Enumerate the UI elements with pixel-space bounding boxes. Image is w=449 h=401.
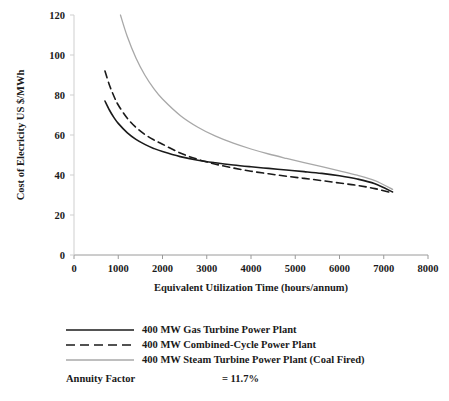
x-axis-title: Equivalent Utilization Time (hours/annum… [154, 282, 349, 294]
legend-label-gas-turbine: 400 MW Gas Turbine Power Plant [142, 322, 297, 337]
x-tick-label: 3000 [196, 263, 217, 274]
legend-swatch-solid-black [66, 324, 134, 336]
chart-axes [74, 15, 428, 255]
y-tick-label: 120 [49, 10, 65, 21]
series-steam-turbine [120, 15, 392, 189]
x-tick-label: 5000 [285, 263, 306, 274]
line-chart: 0100020003000400050006000700080000204060… [0, 0, 449, 310]
y-tick-label: 60 [55, 130, 66, 141]
legend-swatch-solid-gray [66, 354, 134, 366]
x-tick-label: 0 [71, 263, 76, 274]
y-tick-label: 40 [55, 170, 66, 181]
legend-item-gas-turbine: 400 MW Gas Turbine Power Plant [0, 322, 449, 337]
legend-label-steam-turbine: 400 MW Steam Turbine Power Plant (Coal F… [142, 352, 365, 367]
y-tick-label: 0 [60, 250, 65, 261]
chart-area: 0100020003000400050006000700080000204060… [0, 0, 449, 310]
legend-item-steam-turbine: 400 MW Steam Turbine Power Plant (Coal F… [0, 352, 449, 367]
x-tick-label: 7000 [373, 263, 394, 274]
series-combined-cycle [105, 71, 393, 193]
legend-swatch-dashed-black [66, 339, 134, 351]
figure-root: 0100020003000400050006000700080000204060… [0, 0, 449, 401]
annuity-factor-row: Annuity Factor = 11.7% [0, 371, 449, 387]
series-gas-turbine [105, 101, 393, 192]
y-tick-label: 20 [55, 210, 66, 221]
x-tick-label: 6000 [329, 263, 350, 274]
y-axis-ticks: 020406080100120 [49, 10, 74, 261]
legend-item-combined-cycle: 400 MW Combined-Cycle Power Plant [0, 337, 449, 352]
y-axis-title: Cost of Elecricity US $/MWh [15, 70, 26, 201]
x-tick-label: 1000 [108, 263, 129, 274]
annuity-factor-label: Annuity Factor [66, 371, 135, 387]
x-tick-label: 2000 [152, 263, 173, 274]
y-tick-label: 100 [49, 50, 65, 61]
x-tick-label: 4000 [241, 263, 262, 274]
annuity-factor-value: = 11.7% [222, 371, 259, 387]
legend-label-combined-cycle: 400 MW Combined-Cycle Power Plant [142, 337, 316, 352]
chart-legend: 400 MW Gas Turbine Power Plant 400 MW Co… [0, 322, 449, 401]
x-tick-label: 8000 [418, 263, 439, 274]
x-axis-ticks: 010002000300040005000600070008000 [71, 255, 438, 274]
y-tick-label: 80 [55, 90, 66, 101]
